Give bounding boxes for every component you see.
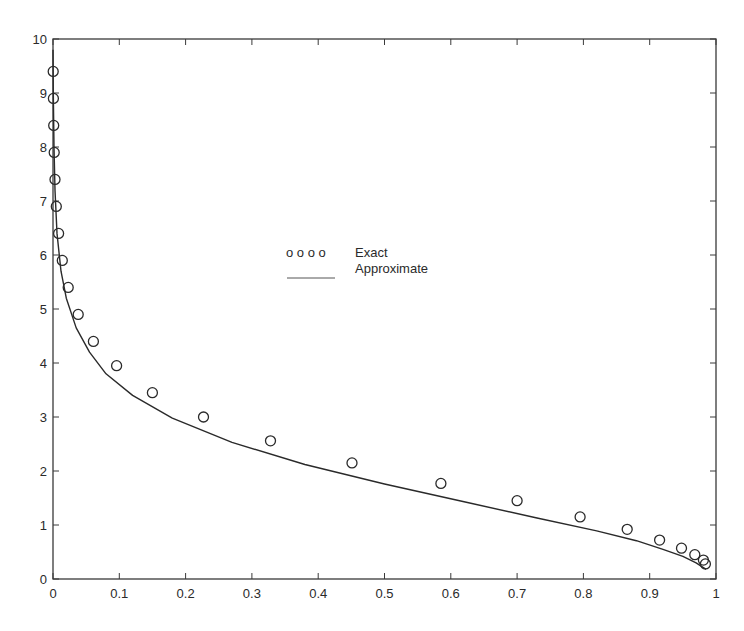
x-tick-label: 0.1	[110, 586, 128, 601]
y-tick-label: 0	[40, 572, 47, 587]
exact-marker	[677, 543, 687, 553]
exact-marker	[622, 524, 632, 534]
y-tick-label: 3	[40, 410, 47, 425]
exact-marker	[57, 255, 67, 265]
y-tick-label: 4	[40, 356, 47, 371]
legend-approximate-label: Approximate	[355, 261, 428, 276]
exact-marker	[436, 478, 446, 488]
approximate-curve	[53, 50, 706, 570]
y-axis-ticks: 012345678910	[33, 32, 716, 587]
legend-exact-symbol: o o o o	[286, 245, 326, 260]
line-chart: 00.10.20.30.40.50.60.70.80.91 0123456789…	[0, 0, 744, 631]
x-tick-label: 1	[712, 586, 719, 601]
exact-marker	[88, 336, 98, 346]
y-tick-label: 7	[40, 194, 47, 209]
x-tick-label: 0.2	[177, 586, 195, 601]
legend-exact-label: Exact	[355, 245, 388, 260]
exact-marker	[112, 361, 122, 371]
y-tick-label: 5	[40, 302, 47, 317]
x-tick-label: 0.3	[243, 586, 261, 601]
exact-marker	[347, 458, 357, 468]
exact-marker	[73, 309, 83, 319]
x-tick-label: 0.5	[375, 586, 393, 601]
y-tick-label: 9	[40, 86, 47, 101]
exact-marker	[655, 535, 665, 545]
exact-marker	[147, 388, 157, 398]
x-tick-label: 0.7	[508, 586, 526, 601]
exact-marker	[54, 228, 64, 238]
legend: o o o o Exact Approximate	[286, 245, 428, 278]
x-tick-label: 0	[49, 586, 56, 601]
exact-marker	[700, 559, 710, 569]
y-tick-label: 1	[40, 518, 47, 533]
x-tick-label: 0.4	[309, 586, 327, 601]
y-tick-label: 8	[40, 140, 47, 155]
x-tick-label: 0.8	[574, 586, 592, 601]
exact-marker	[199, 412, 209, 422]
exact-series-markers	[48, 66, 710, 569]
plot-border	[53, 39, 716, 579]
exact-marker	[266, 436, 276, 446]
x-tick-label: 0.9	[641, 586, 659, 601]
y-tick-label: 6	[40, 248, 47, 263]
x-axis-ticks: 00.10.20.30.40.50.60.70.80.91	[49, 39, 719, 601]
exact-marker	[575, 512, 585, 522]
y-tick-label: 2	[40, 464, 47, 479]
y-tick-label: 10	[33, 32, 47, 47]
axes-frame	[53, 39, 716, 579]
approximate-series-line	[53, 50, 706, 570]
x-tick-label: 0.6	[442, 586, 460, 601]
exact-marker	[512, 496, 522, 506]
